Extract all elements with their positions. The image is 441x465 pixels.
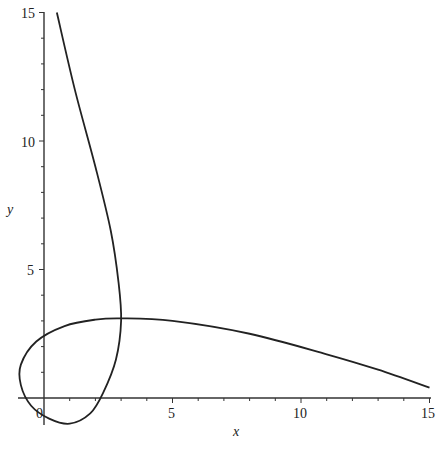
- y-tick-label-15: 15: [21, 6, 35, 21]
- x-tick-label-5: 5: [168, 406, 175, 421]
- x-axis-label: x: [232, 424, 240, 439]
- y-tick-label-10: 10: [21, 135, 35, 150]
- x-tick-label-15: 15: [421, 406, 435, 421]
- y-axis-label: y: [5, 202, 14, 217]
- chart-canvas: 0 5 10 15 5 10 15 x y: [0, 0, 441, 465]
- x-tick-label-10: 10: [293, 406, 307, 421]
- y-tick-label-5: 5: [27, 263, 34, 278]
- curve-line: [19, 13, 429, 424]
- y-ticks: [39, 13, 44, 373]
- axes: [18, 12, 431, 425]
- x-ticks: [70, 398, 430, 403]
